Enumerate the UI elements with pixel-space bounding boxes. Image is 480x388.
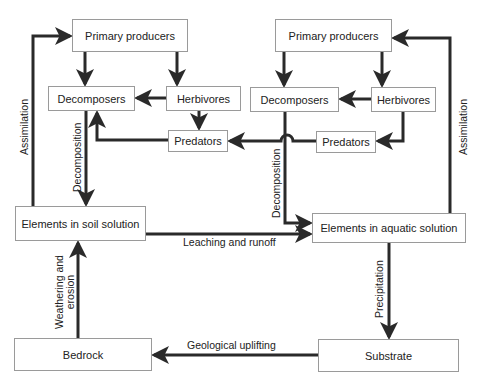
aquatic-primary-producers-box: Primary producers [275, 19, 392, 52]
terrestrial-primary-producers-box: Primary producers [72, 19, 188, 52]
aquatic-herbivores-box: Herbivores [371, 87, 436, 112]
aquatic-solution-box: Elements in aquatic solution [312, 213, 466, 243]
soil-solution-box: Elements in soil solution [15, 206, 146, 241]
substrate-box: Substrate [318, 339, 459, 372]
aquatic-decomposers-box: Decomposers [250, 87, 339, 112]
bedrock-box: Bedrock [14, 338, 152, 371]
assimilation-right-label: Assimilation [458, 99, 469, 155]
decomposition-right-arrow [285, 112, 310, 223]
decomposition-left-label: Decomposition [72, 123, 83, 192]
aquatic-predators-box: Predators [316, 131, 376, 153]
predators-right-to-predators-left-arrow [230, 135, 316, 141]
predators-to-decomposers-left-arrow [97, 113, 168, 140]
leaching-label: Leaching and runoff [183, 236, 276, 248]
precipitation-label: Precipitation [374, 260, 385, 318]
terrestrial-predators-box: Predators [168, 130, 228, 152]
weathering-label: Weathering and erosion [54, 255, 76, 329]
flow-arrows [0, 0, 480, 388]
terrestrial-herbivores-box: Herbivores [166, 86, 241, 111]
decomposition-right-label: Decomposition [271, 149, 282, 218]
herbivores-to-predators-right-arrow [378, 112, 403, 141]
assimilation-left-arrow [33, 36, 70, 206]
uplifting-label: Geological uplifting [187, 339, 276, 351]
terrestrial-decomposers-box: Decomposers [48, 86, 135, 111]
weathering-label-line2: erosion [65, 255, 76, 329]
assimilation-left-label: Assimilation [19, 99, 30, 155]
